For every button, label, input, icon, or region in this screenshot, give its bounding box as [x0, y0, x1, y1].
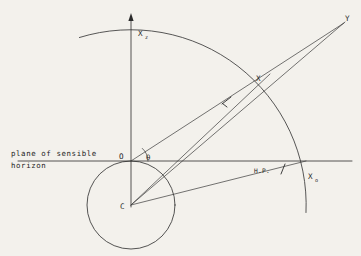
centre-to-X-line	[131, 74, 270, 205]
apparent-position-label-X: X	[256, 74, 261, 83]
centre-to-Y-line	[131, 22, 345, 205]
observer-to-Y-line	[131, 23, 344, 161]
parallax-tick-at-X-foot	[223, 104, 228, 108]
plane-of-sensible-horizon-label-line2: horizon	[11, 161, 46, 170]
parallax-tick-at-X	[222, 97, 231, 104]
parallax-diagram: plane of sensible horizon O C X z X o X …	[0, 0, 361, 256]
true-direction-label-Y: Y	[345, 14, 350, 23]
zenith-label-subscript-z: z	[145, 34, 148, 40]
zenith-arrow-icon	[128, 13, 133, 21]
plane-of-sensible-horizon-label-line1: plane of sensible	[11, 149, 97, 158]
horizontal-parallax-label: H.P.	[254, 167, 270, 174]
theta-angle-label: θ	[146, 153, 150, 162]
parallax-tick-at-Xo	[281, 164, 285, 174]
horizon-point-label-X: X	[308, 172, 313, 181]
centre-label-C: C	[120, 202, 125, 211]
diagram-canvas: plane of sensible horizon O C X z X o X …	[0, 0, 361, 256]
zenith-label-X: X	[138, 29, 143, 38]
origin-label-O: O	[119, 152, 124, 161]
horizon-point-label-subscript-o: o	[315, 177, 318, 183]
